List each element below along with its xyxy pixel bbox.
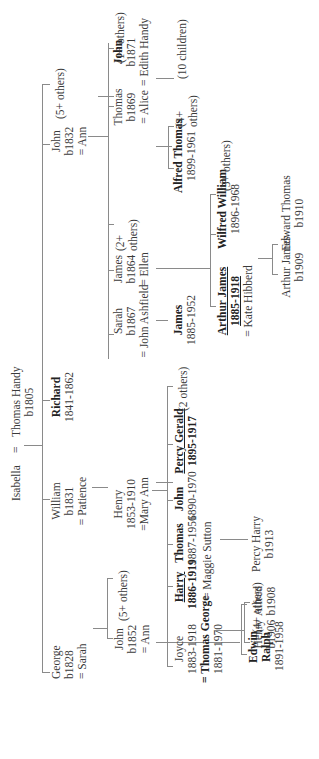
birth-label: b1906 [265,617,278,651]
birth-label: b1831 [63,465,76,537]
name-label: John [173,477,186,521]
node-thomas-handy: Thomas Handy b1805 [10,367,36,437]
node-william: William b1831 = Patience [50,465,89,537]
spouse-label: = Patience [76,465,89,537]
name-label: Henry [252,617,265,651]
dates-label: 1883-1918 [186,615,199,683]
node-edward-thomas: Edward Thomas b1910 [280,173,306,253]
node-harry: Harry 1886-1919 [173,565,199,609]
connector [244,603,245,643]
node-thomas-1869: Thomas b1869 = Alice [112,85,151,129]
name-label: Sarah [112,281,125,361]
node-james-1885: James 1885-1952 [172,295,198,345]
connector [156,78,174,79]
name-label: Percy Gerald [173,407,186,475]
connector [156,320,168,321]
spouse-label: = Kate Hibberd [242,263,255,339]
birth-label: b1805 [23,367,36,437]
node-john-1890: John 1890-1970 [173,477,199,521]
birth-label: b1832 [63,121,76,161]
spouse-label: = Alice [138,85,151,129]
connector [244,642,250,643]
connector [220,539,248,540]
connector [210,195,211,307]
name-label: John [50,121,63,161]
name-label: Arthur James [216,263,229,339]
connector [272,244,278,245]
dates-label: 1885-1952 [185,295,198,345]
others-note: (1+ others) [114,12,127,63]
birth-label: b1908 [265,583,278,619]
connector [93,628,107,629]
connector [42,85,43,673]
connector [24,445,42,446]
node-sarah: Sarah b1867 = John Ashfield [112,281,151,361]
spouse-label: = Ellen [138,247,151,291]
dates-label: 1881-1970 [212,615,225,683]
node-alfred-1908: Alfred b1908 [252,583,278,619]
dates-label: 1885-1918 [229,263,242,339]
spouse-label: =Mary Ann [138,469,151,539]
connector [42,144,50,145]
name-label: Edward Thomas [280,173,293,253]
connector [156,268,210,269]
spouse-label: = Thomas George [199,615,212,683]
family-tree-diagram: Thomas Handy b1805 = Isabella George b18… [0,0,319,759]
connector [272,245,273,275]
dates-label: 1887-1956 [186,521,199,565]
connector [92,487,108,488]
connector [214,630,244,631]
dates-label: 1890-1970 [186,477,199,521]
node-george: George b1828 = Sarah [50,629,89,679]
connector [167,483,168,667]
connector [258,258,272,259]
dates-label: 1895-1917 [186,407,199,475]
node-richard: Richard 1841-1862 [50,367,76,427]
name-label: James [112,247,125,291]
node-john-1852: John b1852 = Ann [113,619,152,659]
node-arthur-james: Arthur James 1885-1918 = Kate Hibberd [216,263,255,339]
birth-label: b1828 [63,629,76,679]
spouse-label: = Ann [76,121,89,161]
node-percy-harry: Percy Harry b1913 [250,509,276,579]
spouse-label: = Sarah [76,629,89,679]
name-label: Thomas [173,521,186,565]
birth-label: b1852 [126,619,139,659]
name-label: Henry [112,469,125,539]
dates-label: 1853-1910 [125,469,138,539]
name-label: Alfred [252,583,265,619]
connector [156,482,173,483]
birth-label: b1867 [125,281,138,361]
node-john-1832: John b1832 = Ann [50,121,89,161]
connector [167,387,168,445]
birth-label: b1913 [263,509,276,579]
others-note: (4+ others) [174,87,200,127]
connector [42,84,50,85]
node-james-1864: James b1864 = Ellen [112,247,151,291]
name-label: William [50,465,63,537]
birth-label: b1869 [125,85,138,129]
family-tree-viewport: Thomas Handy b1805 = Isabella George b18… [0,0,319,759]
name-label: Joyce [173,615,186,683]
spouse-label: = John Ashfield [138,281,151,361]
connector [168,127,169,169]
connector [42,672,50,673]
connector [244,602,250,603]
name-label: Percy Harry [250,509,263,579]
name-label: Thomas [112,85,125,129]
connector [107,578,113,579]
connector [156,146,172,147]
name-label: Harry [173,565,186,609]
node-isabella: Isabella [10,465,23,501]
node-joyce: Joyce 1883-1918 = Thomas George 1881-197… [173,615,225,683]
birth-label: b1910 [293,173,306,253]
others-note: (2+ others) [114,211,140,251]
connector [210,194,216,195]
others-note: (5+ others) [117,570,130,621]
connector [152,490,167,491]
node-henry: Henry 1853-1910 =Mary Ann [112,469,151,539]
node-percy-gerald: Percy Gerald 1895-1917 [173,407,199,475]
spouse-label: = Ann [139,619,152,659]
dates-label: 1841-1862 [63,367,76,427]
marriage-sign: = [10,447,23,454]
